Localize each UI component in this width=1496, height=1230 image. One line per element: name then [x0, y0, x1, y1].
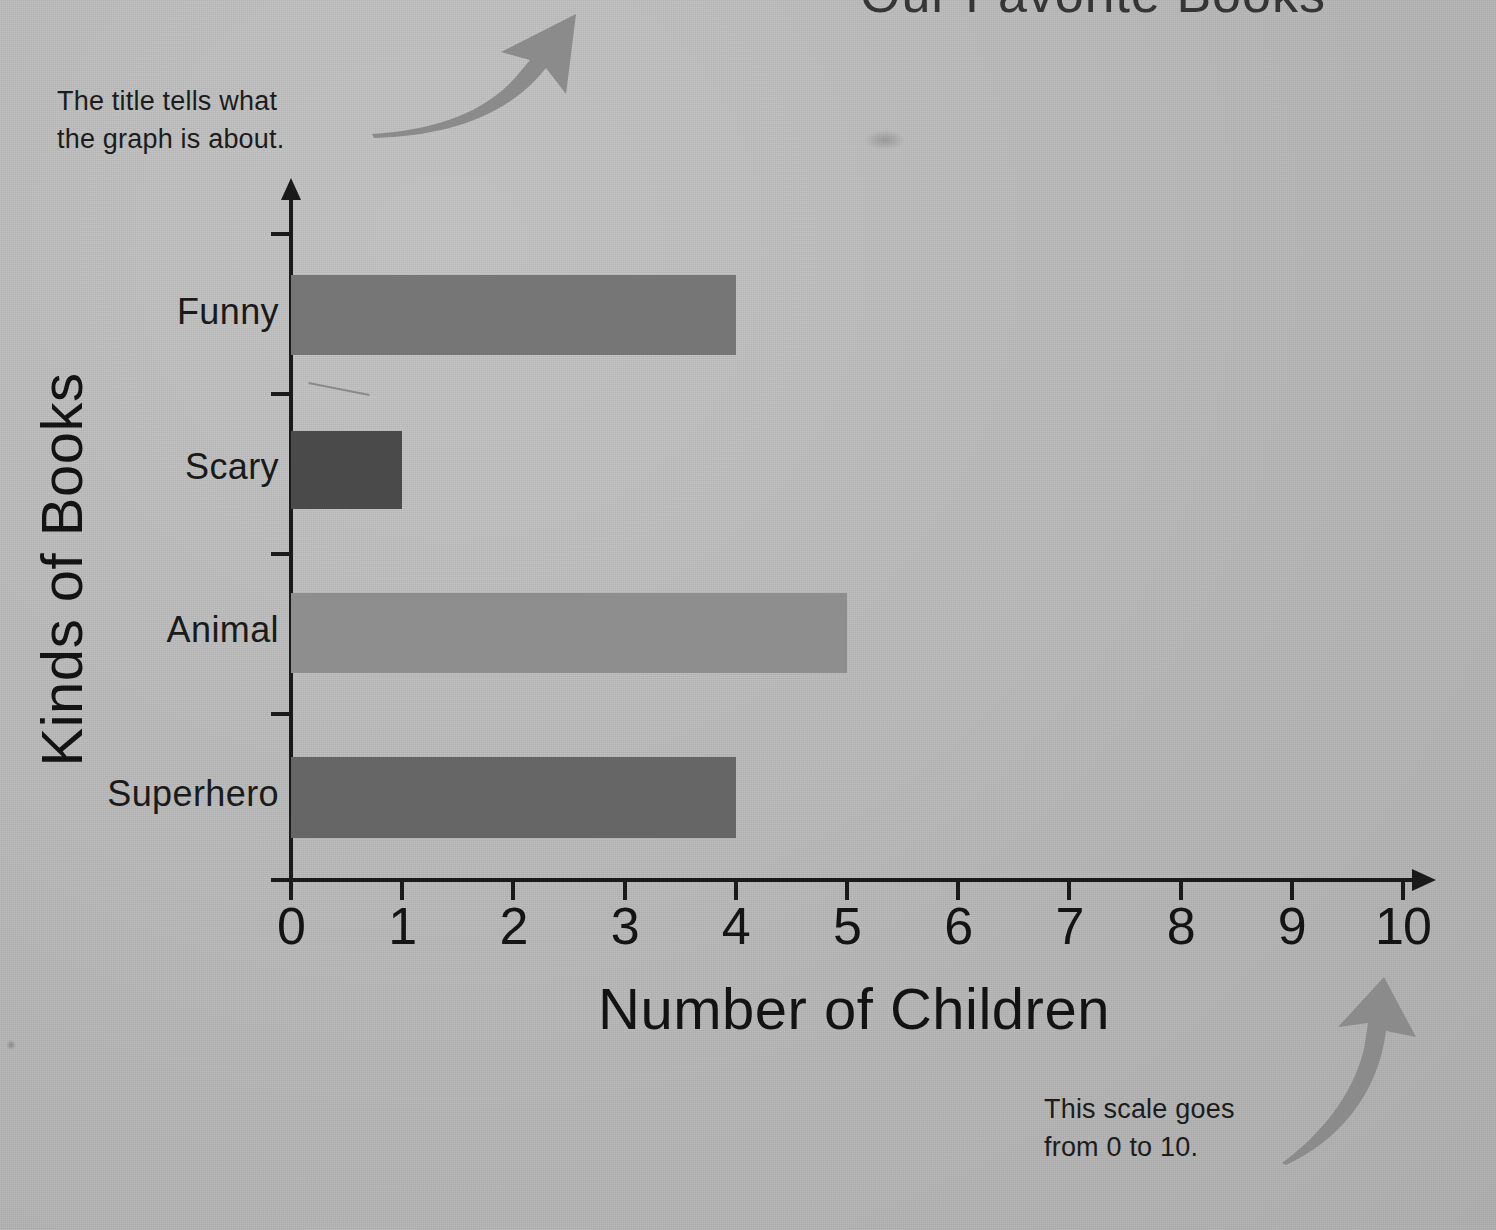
x-axis-tick-label-9: 9: [1252, 896, 1332, 956]
x-axis-tick-label-2: 2: [473, 896, 553, 956]
x-axis-title: Number of Children: [291, 975, 1417, 1042]
bar-funny: [291, 275, 736, 355]
y-axis-label-scary: Scary: [185, 446, 279, 488]
y-axis-label-animal: Animal: [167, 609, 279, 651]
bar-superhero: [291, 757, 736, 838]
y-axis-tick: [271, 232, 293, 236]
y-axis-label-funny: Funny: [177, 291, 279, 333]
x-axis-tick-label-7: 7: [1029, 896, 1109, 956]
x-axis-tick-label-6: 6: [918, 896, 998, 956]
y-axis-tick: [271, 392, 293, 396]
y-axis-tick: [271, 552, 293, 556]
x-axis-tick-label-4: 4: [696, 896, 776, 956]
y-axis-label-superhero: Superhero: [107, 773, 279, 815]
x-axis-tick-label-8: 8: [1141, 896, 1221, 956]
x-axis-tick-label-10: 10: [1363, 896, 1443, 956]
x-axis-tick-label-0: 0: [251, 896, 331, 956]
x-axis-tick-label-1: 1: [362, 896, 442, 956]
pencil-stray-mark: [308, 382, 369, 396]
y-axis-title: Kinds of Books: [28, 355, 95, 785]
x-axis-tick-label-5: 5: [807, 896, 887, 956]
bar-scary: [291, 431, 402, 509]
x-axis-tick-label-3: 3: [585, 896, 665, 956]
x-axis-arrowhead-icon: [1412, 869, 1436, 891]
bar-animal: [291, 593, 847, 673]
curved-arrow-up-right-icon: [1280, 975, 1420, 1165]
bar-chart: FunnyScaryAnimalSuperhero 012345678910 K…: [0, 0, 1496, 1230]
annotation-scale-note: This scale goes from 0 to 10.: [1044, 1090, 1235, 1167]
y-axis-arrowhead-icon: [281, 178, 301, 200]
x-axis-line: [271, 878, 1417, 882]
y-axis-tick: [271, 712, 293, 716]
worksheet-page: Our Favorite Books The title tells what …: [0, 0, 1496, 1230]
